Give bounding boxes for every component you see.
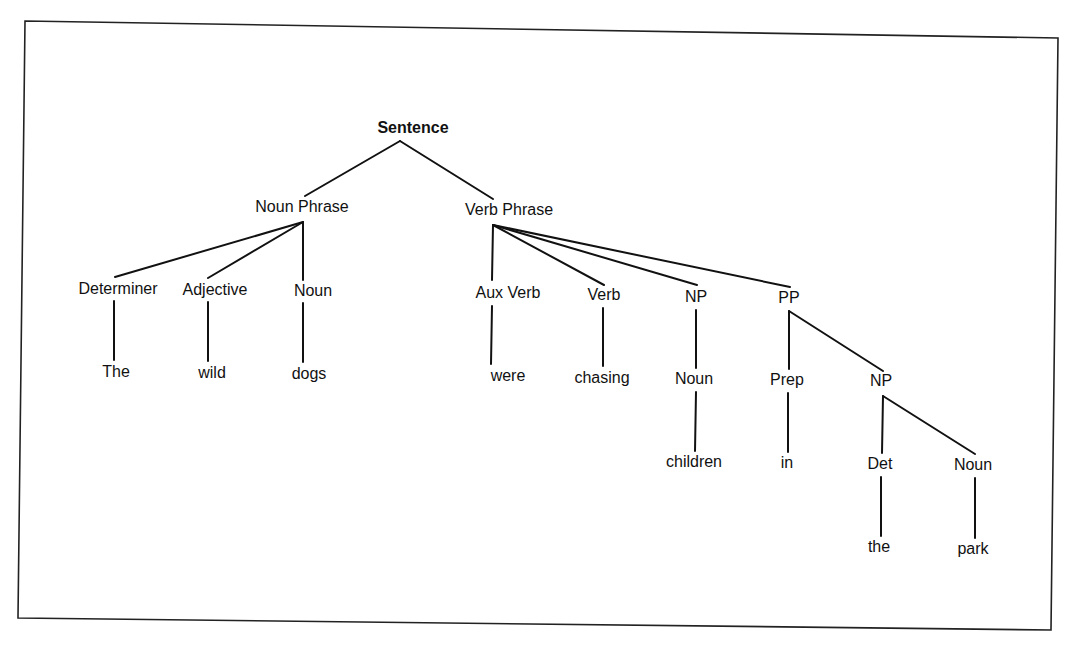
edge-vp-pp: [493, 225, 790, 287]
node-adj: Adjective: [183, 281, 248, 298]
edge-sentence-vp: [400, 141, 493, 199]
node-verb: Verb: [588, 286, 621, 303]
node-det2: Det: [868, 455, 893, 472]
node-noun2: Noun: [675, 370, 713, 387]
edge-vp-np2: [493, 225, 697, 285]
diagram-frame: [18, 21, 1058, 630]
node-aux: Aux Verb: [476, 284, 541, 301]
node-np2: NP: [685, 288, 707, 305]
node-children: children: [666, 453, 722, 470]
node-pp: PP: [778, 289, 799, 306]
node-were: were: [490, 367, 526, 384]
edge-vp-aux: [492, 225, 493, 280]
tree-nodes: SentenceNoun PhraseVerb PhraseDeterminer…: [78, 119, 992, 557]
edge-sentence-np: [305, 141, 400, 196]
node-park: park: [957, 540, 989, 557]
node-wild: wild: [197, 364, 226, 381]
node-dogs: dogs: [292, 365, 327, 382]
node-noun1: Noun: [294, 282, 332, 299]
node-np3: NP: [870, 372, 892, 389]
node-the1: The: [102, 363, 130, 380]
edge-aux-were: [491, 306, 492, 364]
node-in: in: [781, 454, 793, 471]
edge-noun2-children: [695, 392, 696, 451]
node-chasing: chasing: [574, 369, 629, 386]
node-prep: Prep: [770, 371, 804, 388]
node-the2: the: [868, 538, 890, 555]
edge-pp-np3: [789, 311, 883, 371]
edge-np-det: [115, 222, 303, 277]
node-noun3: Noun: [954, 456, 992, 473]
parse-tree-diagram: SentenceNoun PhraseVerb PhraseDeterminer…: [0, 0, 1084, 656]
node-np: Noun Phrase: [255, 198, 348, 215]
node-vp: Verb Phrase: [465, 201, 553, 218]
edge-np3-det2: [882, 396, 883, 453]
node-sentence: Sentence: [377, 119, 448, 136]
edge-np-adj: [208, 222, 303, 278]
edge-vp-verb: [493, 225, 604, 285]
node-det: Determiner: [78, 280, 158, 297]
edge-np3-noun3: [883, 396, 975, 454]
